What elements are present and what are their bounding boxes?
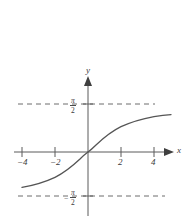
x-axis-arrowhead [164,148,174,156]
arctan-figure: −4 −2 2 4 x y π 2 − π 2 [0,0,192,220]
lower-asymptote-denominator: 2 [70,199,76,207]
plot-canvas [0,0,192,220]
x-tick-label-2: 2 [118,158,123,167]
x-axis-label: x [177,146,181,155]
upper-asymptote-numerator: π [70,97,76,105]
x-tick-label-4: 4 [151,158,156,167]
y-axis-label: y [86,66,90,75]
upper-asymptote-label: π 2 [70,97,76,114]
x-tick-label-minus-4: −4 [17,158,28,167]
y-axis-arrowhead [84,76,92,86]
x-tick-label-minus-2: −2 [50,158,61,167]
lower-asymptote-label: − π 2 [70,189,76,206]
upper-asymptote-denominator: 2 [70,107,76,115]
lower-asymptote-sign: − [64,195,68,203]
arctan-curve [22,115,171,188]
lower-asymptote-numerator: π [70,189,76,197]
